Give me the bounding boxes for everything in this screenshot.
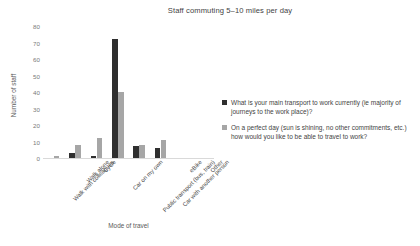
chart-title: Staff commuting 5–10 miles per day [0, 6, 420, 15]
bar [118, 92, 123, 158]
y-tick-label: 10 [18, 138, 40, 145]
y-tick-label: 70 [18, 39, 40, 46]
bar-group [86, 26, 107, 158]
y-tick-label: 80 [18, 23, 40, 30]
bar-group [171, 26, 192, 158]
legend-swatch [222, 125, 227, 130]
bar-group [64, 26, 85, 158]
bar-group [193, 26, 214, 158]
legend-entry: What is your main transport to work curr… [222, 98, 418, 116]
y-tick-label: 20 [18, 122, 40, 129]
y-tick-label: 50 [18, 72, 40, 79]
bar-group [150, 26, 171, 158]
bar [161, 140, 166, 158]
legend-label: On a perfect day (sun is shining, no oth… [231, 124, 407, 140]
legend-swatch [222, 100, 227, 105]
bar [155, 148, 160, 158]
legend-label: What is your main transport to work curr… [231, 99, 401, 115]
bar [133, 146, 138, 158]
legend-entry: On a perfect day (sun is shining, no oth… [222, 123, 418, 141]
y-tick-label: 30 [18, 105, 40, 112]
y-axis-tick-labels: 01020304050607080 [14, 0, 40, 246]
chart-legend: What is your main transport to work curr… [222, 98, 418, 148]
bar-group [107, 26, 128, 158]
bar [112, 39, 117, 158]
plot-area [43, 26, 214, 158]
bar [139, 145, 144, 158]
bar [75, 145, 80, 158]
bar-group [43, 26, 64, 158]
x-axis-tick-labels: Walk with colleaguesWalk aloneCycleCar o… [43, 159, 243, 229]
x-tick-label: Car on my own [131, 159, 163, 191]
bar-group [129, 26, 150, 158]
x-axis-title: Mode of travel [43, 222, 214, 229]
y-tick-label: 0 [18, 155, 40, 162]
y-tick-label: 40 [18, 89, 40, 96]
y-tick-label: 60 [18, 56, 40, 63]
bar [97, 138, 102, 158]
